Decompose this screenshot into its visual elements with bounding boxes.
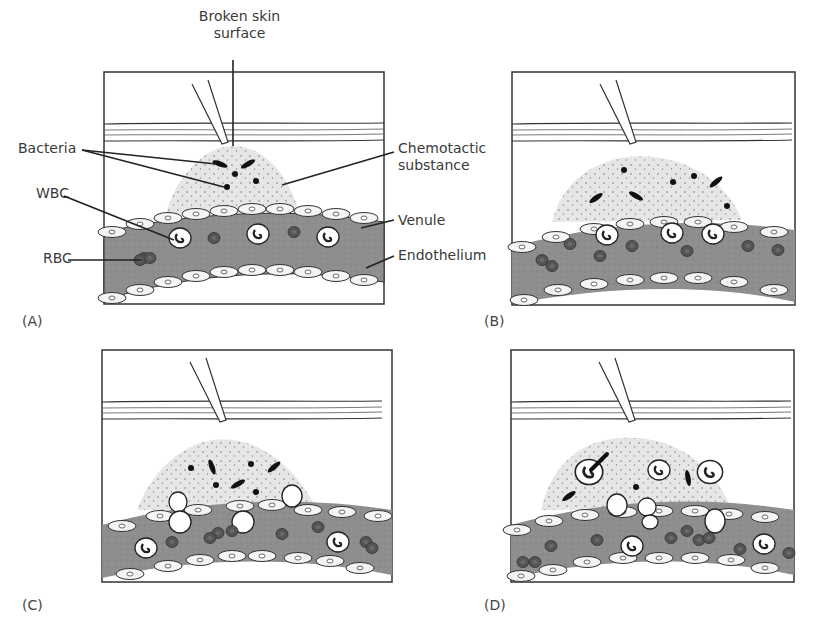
panel-a <box>64 60 394 304</box>
inflammation-diagram <box>0 0 815 626</box>
panel-c <box>102 350 392 582</box>
panel-b <box>508 72 795 306</box>
panel-d <box>503 350 795 582</box>
